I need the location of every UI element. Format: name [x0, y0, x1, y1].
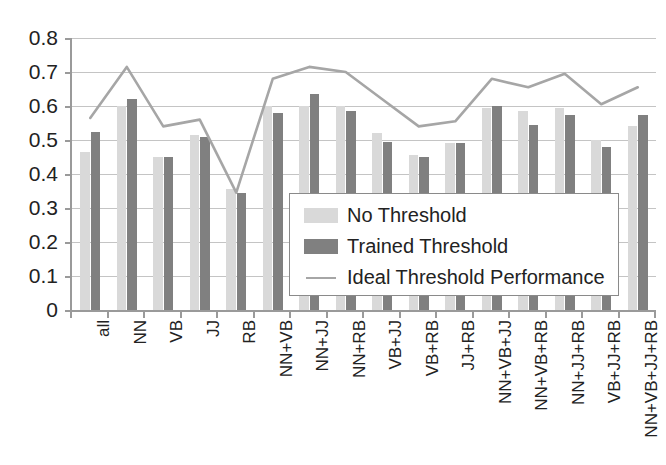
x-tick-label: NN+JJ	[313, 320, 333, 371]
x-tick-label: VB+RB	[423, 320, 443, 376]
legend-item-no-threshold: No Threshold	[304, 200, 618, 231]
x-tick-mark	[253, 310, 255, 318]
y-tick-mark	[65, 208, 72, 210]
y-tick-label: 0.6	[29, 94, 58, 118]
y-tick-mark	[65, 106, 72, 108]
x-tick-mark	[216, 310, 218, 318]
y-tick-label: 0	[46, 298, 58, 322]
x-tick-mark	[326, 310, 328, 318]
x-tick-label: RB	[240, 320, 260, 344]
x-tick-mark	[435, 310, 437, 318]
y-tick-label: 0.2	[29, 230, 58, 254]
x-tick-label: NN+VB+JJ+RB	[642, 320, 662, 438]
x-tick-label: NN	[131, 320, 151, 345]
legend-item-trained-threshold: Trained Threshold	[304, 231, 618, 262]
x-tick-mark	[618, 310, 620, 318]
legend-swatch-icon-trained-threshold	[304, 239, 338, 254]
x-tick-mark	[399, 310, 401, 318]
legend-swatch-icon-no-threshold	[304, 208, 338, 223]
x-tick-label: NN+RB	[350, 320, 370, 378]
x-tick-mark	[143, 310, 145, 318]
legend-label-trained-threshold: Trained Threshold	[347, 235, 508, 258]
y-tick-label: 0.5	[29, 128, 58, 152]
y-tick-label: 0.8	[29, 26, 58, 50]
x-tick-label: JJ+RB	[459, 320, 479, 371]
x-tick-mark	[180, 310, 182, 318]
y-tick-label: 0.3	[29, 196, 58, 220]
x-tick-mark	[508, 310, 510, 318]
y-tick-mark	[65, 72, 72, 74]
chart-legend: No Threshold Trained Threshold Ideal Thr…	[289, 193, 619, 296]
x-tick-label: NN+VB+JJ	[496, 320, 516, 404]
y-tick-label: 0.7	[29, 60, 58, 84]
x-tick-label: all	[94, 320, 114, 337]
legend-swatch-icon-ideal-threshold-performance	[304, 270, 338, 285]
x-tick-mark	[107, 310, 109, 318]
legend-item-ideal-threshold-performance: Ideal Threshold Performance	[304, 262, 618, 293]
x-tick-mark	[581, 310, 583, 318]
x-tick-label: VB+JJ	[386, 320, 406, 370]
y-tick-mark	[65, 174, 72, 176]
y-axis: 0.80.70.60.50.40.30.20.10	[0, 0, 66, 465]
x-tick-label: VB	[167, 320, 187, 343]
chart-container: 0.80.70.60.50.40.30.20.10 allNNVBJJRBNN+…	[0, 0, 666, 465]
y-tick-mark	[65, 242, 72, 244]
x-tick-label: VB+JJ+RB	[605, 320, 625, 403]
legend-label-no-threshold: No Threshold	[347, 204, 467, 227]
x-axis-ticks	[70, 310, 654, 318]
x-tick-label: NN+VB+RB	[532, 320, 552, 411]
x-axis-labels: allNNVBJJRBNN+VBNN+JJNN+RBVB+JJVB+RBJJ+R…	[70, 320, 654, 465]
x-tick-mark	[472, 310, 474, 318]
y-tick-mark	[65, 38, 72, 40]
x-tick-mark	[545, 310, 547, 318]
x-tick-mark	[654, 310, 656, 318]
x-tick-mark	[289, 310, 291, 318]
x-tick-mark	[362, 310, 364, 318]
x-tick-label: NN+JJ+RB	[569, 320, 589, 405]
y-tick-label: 0.4	[29, 162, 58, 186]
x-tick-label: NN+VB	[277, 320, 297, 377]
x-tick-label: JJ	[204, 320, 224, 337]
legend-label-ideal-threshold-performance: Ideal Threshold Performance	[347, 266, 605, 289]
y-tick-mark	[65, 276, 72, 278]
y-tick-mark	[65, 140, 72, 142]
y-tick-label: 0.1	[29, 264, 58, 288]
x-tick-mark	[70, 310, 72, 318]
